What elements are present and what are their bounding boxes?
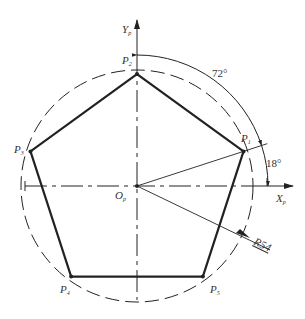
pentagon-diagram: Yp Xp Op P1 P2 P3 P4 P5 72° 18° R54 xyxy=(0,0,305,319)
origin-label: Op xyxy=(115,189,126,202)
angle-label-72: 72° xyxy=(212,67,227,79)
radius-line-to-p1 xyxy=(137,151,244,186)
vertex-point-p3 xyxy=(28,149,32,153)
vertex-point-p4 xyxy=(69,275,73,279)
x-axis-label: Xp xyxy=(275,192,286,205)
vertex-point-p2 xyxy=(135,72,139,76)
vertex-label-p3: P3 xyxy=(13,143,24,156)
vertex-label-p1: P1 xyxy=(240,132,251,145)
vertex-point-p5 xyxy=(201,275,205,279)
vertex-label-p2: P2 xyxy=(121,54,132,67)
angle-label-18: 18° xyxy=(266,157,281,169)
radius-label: R54 xyxy=(251,235,274,254)
radius-dimension-line xyxy=(137,186,270,250)
vertex-label-p4: P4 xyxy=(59,283,70,296)
origin-point xyxy=(135,184,139,188)
y-axis-label: Yp xyxy=(122,23,131,36)
vertex-point-p1 xyxy=(242,149,246,153)
vertex-label-p5: P5 xyxy=(209,283,220,296)
